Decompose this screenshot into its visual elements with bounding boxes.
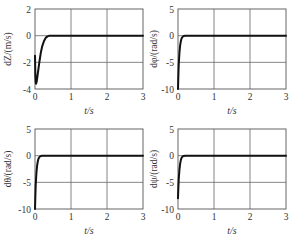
y-tick-label: -4 bbox=[23, 85, 31, 95]
y-tick-label: 5 bbox=[26, 125, 31, 135]
y-tick-label: -10 bbox=[161, 205, 174, 215]
x-tick-label: 1 bbox=[212, 92, 217, 102]
x-axis-label: t/s bbox=[227, 105, 237, 116]
series-line bbox=[178, 156, 286, 199]
x-tick-label: 0 bbox=[33, 212, 38, 222]
x-tick-label: 0 bbox=[176, 212, 181, 222]
y-axis-label: dθ/(rad/s) bbox=[3, 151, 14, 188]
axes-box bbox=[178, 129, 286, 209]
x-tick-label: 3 bbox=[284, 212, 289, 222]
y-axis-label: dZ/(m/s) bbox=[3, 32, 14, 65]
x-tick-label: 0 bbox=[176, 92, 181, 102]
y-tick-label: -5 bbox=[23, 178, 31, 188]
y-tick-label: -5 bbox=[166, 178, 174, 188]
subplot-dtheta: 012350-5-10t/sdθ/(rad/s) bbox=[3, 125, 146, 237]
x-axis-label: t/s bbox=[84, 225, 94, 236]
axes-box bbox=[35, 9, 143, 89]
x-tick-label: 2 bbox=[105, 92, 110, 102]
y-axis-label: dφ/(rad/s) bbox=[149, 30, 160, 68]
y-tick-label: 5 bbox=[169, 125, 174, 135]
x-axis-label: t/s bbox=[84, 105, 94, 116]
y-tick-label: 0 bbox=[26, 151, 31, 161]
axes-box bbox=[178, 9, 286, 89]
x-tick-label: 1 bbox=[212, 212, 217, 222]
y-tick-label: -2 bbox=[23, 58, 31, 68]
x-tick-label: 2 bbox=[248, 92, 253, 102]
subplot-dz: 012320-2-4t/sdZ/(m/s) bbox=[3, 5, 146, 117]
x-tick-label: 3 bbox=[141, 212, 146, 222]
x-tick-label: 1 bbox=[69, 212, 74, 222]
x-tick-label: 1 bbox=[69, 92, 74, 102]
x-tick-label: 3 bbox=[141, 92, 146, 102]
figure: 012320-2-4t/sdZ/(m/s) 012350-5-10t/sdφ/(… bbox=[0, 0, 293, 243]
y-axis-label: dψ/(rad/s) bbox=[149, 150, 160, 188]
x-tick-label: 2 bbox=[248, 212, 253, 222]
y-tick-label: -10 bbox=[161, 85, 174, 95]
y-tick-label: 0 bbox=[26, 31, 31, 41]
subplot-dpsi: 012350-5-10t/sdψ/(rad/s) bbox=[149, 125, 289, 237]
x-tick-label: 3 bbox=[284, 92, 289, 102]
y-tick-label: 5 bbox=[169, 5, 174, 15]
x-tick-label: 0 bbox=[33, 92, 38, 102]
y-tick-label: 0 bbox=[169, 151, 174, 161]
subplot-dphi: 012350-5-10t/sdφ/(rad/s) bbox=[149, 5, 289, 117]
y-tick-label: -10 bbox=[18, 205, 31, 215]
axes-box bbox=[35, 129, 143, 209]
x-tick-label: 2 bbox=[105, 212, 110, 222]
series-line bbox=[35, 36, 143, 84]
y-tick-label: 2 bbox=[26, 5, 31, 15]
x-axis-label: t/s bbox=[227, 225, 237, 236]
y-tick-label: 0 bbox=[169, 31, 174, 41]
y-tick-label: -5 bbox=[166, 58, 174, 68]
